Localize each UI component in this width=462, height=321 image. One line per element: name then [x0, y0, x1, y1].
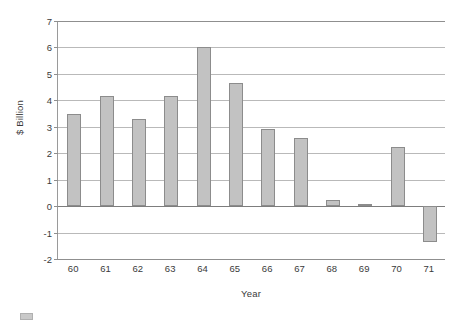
y-axis-tick-mark — [54, 259, 58, 260]
x-axis-tick-labels: 606162636465666768697071 — [57, 263, 445, 279]
x-axis-tick-label: 71 — [424, 263, 435, 274]
legend-swatch — [20, 313, 33, 320]
legend — [20, 313, 100, 321]
x-axis-tick-label: 65 — [230, 263, 241, 274]
bar — [229, 83, 243, 206]
x-axis-tick-label: 69 — [359, 263, 370, 274]
y-axis-tick-label: 4 — [47, 95, 52, 106]
y-axis-tick-label: 3 — [47, 121, 52, 132]
x-axis-tick-label: 63 — [165, 263, 176, 274]
bar-chart: $ Billion 76543210-1-2 60616263646566676… — [0, 0, 462, 321]
x-axis-tick-label: 67 — [294, 263, 305, 274]
bar — [326, 200, 340, 207]
y-axis-tick-label: 1 — [47, 174, 52, 185]
y-axis-tick-label: -1 — [44, 227, 52, 238]
bar — [164, 96, 178, 207]
bar — [67, 114, 81, 207]
y-axis-tick-label: -2 — [44, 254, 52, 265]
bar — [132, 119, 146, 206]
x-axis-tick-label: 61 — [100, 263, 111, 274]
x-axis-tick-label: 60 — [68, 263, 79, 274]
x-axis-tick-label: 68 — [327, 263, 338, 274]
bar — [423, 206, 437, 242]
y-axis-tick-label: 0 — [47, 201, 52, 212]
bar — [391, 147, 405, 206]
x-axis-title: Year — [57, 288, 445, 299]
x-axis-tick-label: 66 — [262, 263, 273, 274]
gridline: -2 — [58, 259, 445, 260]
y-axis-title: $ Billion — [14, 78, 25, 158]
x-axis-tick-label: 70 — [391, 263, 402, 274]
bars-group — [58, 21, 445, 259]
bar — [358, 204, 372, 206]
plot-area: 76543210-1-2 — [57, 21, 445, 259]
x-axis-tick-label: 64 — [197, 263, 208, 274]
bar — [100, 96, 114, 207]
bar — [197, 47, 211, 206]
bar — [261, 129, 275, 206]
y-axis-tick-label: 2 — [47, 148, 52, 159]
x-axis-tick-label: 62 — [133, 263, 144, 274]
y-axis-tick-label: 6 — [47, 42, 52, 53]
bar — [294, 138, 308, 206]
y-axis-tick-label: 7 — [47, 16, 52, 27]
y-axis-tick-label: 5 — [47, 68, 52, 79]
